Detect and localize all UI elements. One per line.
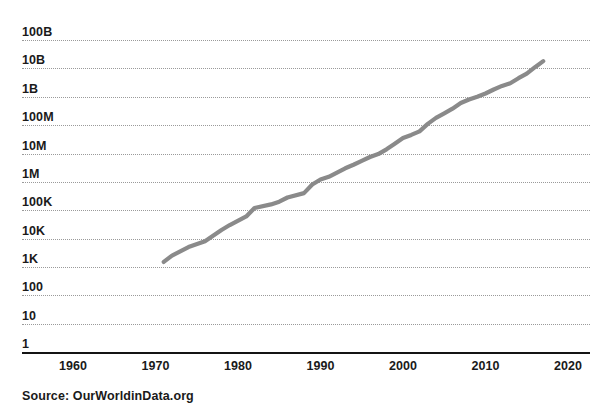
gridline-10M [22,154,590,155]
y-tick-label-10B: 10B [22,54,45,67]
y-tick-label-1M: 1M [22,168,40,181]
gridline-100B [22,40,590,41]
y-tick-label-10M: 10M [22,140,47,153]
source-note: Source: OurWorldinData.org [22,389,194,403]
x-tick-label-2020: 2020 [554,360,582,373]
y-tick-label-10: 10 [22,310,36,323]
gridline-100K [22,210,590,211]
gridline-100M [22,125,590,126]
gridline-10 [22,324,590,325]
plot-area [22,40,590,352]
chart-container: 100B 10B 1B 100M 10M 1M 100K 10K 1K 100 … [0,0,613,416]
x-tick-label-2010: 2010 [472,360,500,373]
gridline-1B [22,97,590,98]
y-tick-label-1B: 1B [22,83,38,96]
gridline-10B [22,68,590,69]
y-tick-label-100: 100 [22,281,43,294]
y-tick-label-100B: 100B [22,26,52,39]
y-tick-label-1K: 1K [22,253,38,266]
y-tick-label-10K: 10K [22,225,45,238]
x-tick-label-1990: 1990 [307,360,335,373]
x-tick-label-2000: 2000 [389,360,417,373]
y-tick-label-100M: 100M [22,111,54,124]
x-axis-line [22,352,590,354]
gridline-100 [22,295,590,296]
gridline-10K [22,239,590,240]
y-tick-label-100K: 100K [22,196,52,209]
x-tick-label-1980: 1980 [224,360,252,373]
gridline-1M [22,182,590,183]
gridline-1K [22,267,590,268]
x-tick-label-1960: 1960 [59,360,87,373]
y-tick-label-1: 1 [22,338,29,351]
x-tick-label-1970: 1970 [142,360,170,373]
